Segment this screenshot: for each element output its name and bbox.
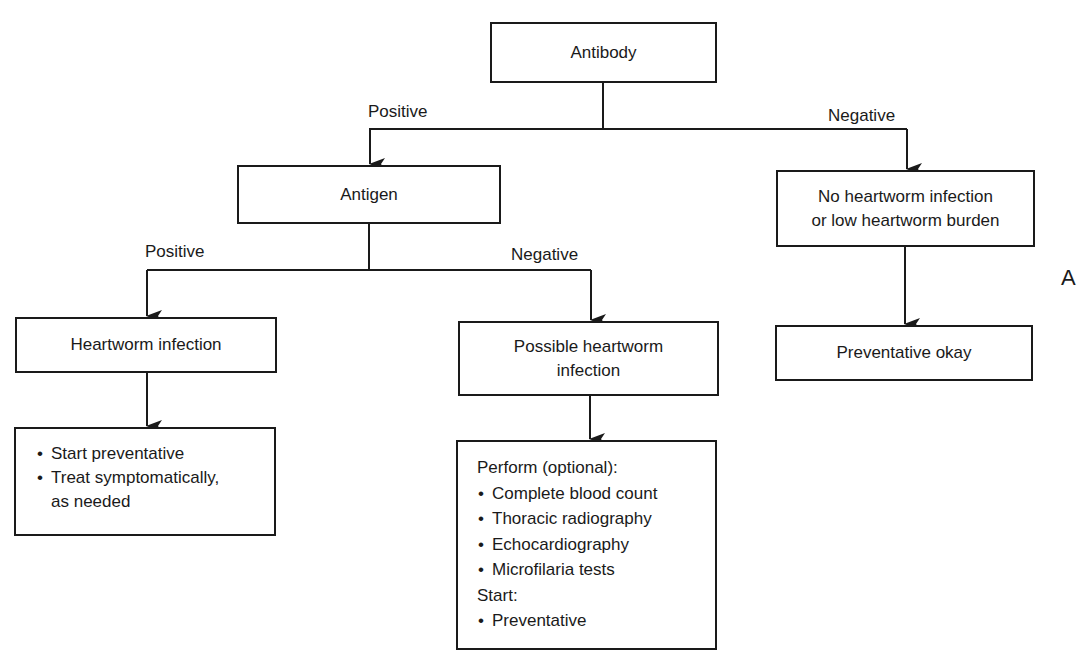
node-antibody-label: Antibody xyxy=(570,41,636,65)
treatment-list: Start preventative Treat symptomatically… xyxy=(36,442,219,514)
workup-heading-perform: Perform (optional): xyxy=(477,455,657,481)
node-possible-infection: Possible heartworm infection xyxy=(458,321,719,396)
node-preventative-okay-label: Preventative okay xyxy=(836,341,971,365)
treatment-item: Start preventative xyxy=(36,442,219,466)
node-workup: Perform (optional): Complete blood count… xyxy=(456,440,717,650)
node-possible-infection-line2: infection xyxy=(557,359,620,383)
node-preventative-okay: Preventative okay xyxy=(775,325,1033,381)
node-no-infection: No heartworm infection or low heartworm … xyxy=(776,170,1035,247)
node-heartworm-infection-label: Heartworm infection xyxy=(70,333,221,357)
workup-item: Echocardiography xyxy=(477,532,657,558)
node-treatment: Start preventative Treat symptomatically… xyxy=(14,427,276,536)
workup-content: Perform (optional): Complete blood count… xyxy=(477,455,657,634)
edge-label-antigen-positive: Positive xyxy=(145,242,205,262)
workup-start-list: Preventative xyxy=(477,608,657,634)
node-heartworm-infection: Heartworm infection xyxy=(15,317,277,373)
workup-item: Thoracic radiography xyxy=(477,506,657,532)
treatment-item-continued: as needed xyxy=(36,490,219,514)
node-no-infection-line1: No heartworm infection xyxy=(818,185,993,209)
node-antigen-label: Antigen xyxy=(340,183,398,207)
node-possible-infection-line1: Possible heartworm xyxy=(514,335,663,359)
treatment-item: Treat symptomatically, xyxy=(36,466,219,490)
node-antigen: Antigen xyxy=(237,165,501,224)
panel-label: A xyxy=(1061,265,1076,291)
edge-label-antibody-negative: Negative xyxy=(828,106,895,126)
edge-label-antibody-positive: Positive xyxy=(368,102,428,122)
edge-label-antigen-negative: Negative xyxy=(511,245,578,265)
node-no-infection-line2: or low heartworm burden xyxy=(811,209,999,233)
workup-item: Microfilaria tests xyxy=(477,557,657,583)
workup-item: Preventative xyxy=(477,608,657,634)
node-antibody: Antibody xyxy=(490,22,717,83)
workup-heading-start: Start: xyxy=(477,583,657,609)
workup-perform-list: Complete blood count Thoracic radiograph… xyxy=(477,481,657,583)
workup-item: Complete blood count xyxy=(477,481,657,507)
